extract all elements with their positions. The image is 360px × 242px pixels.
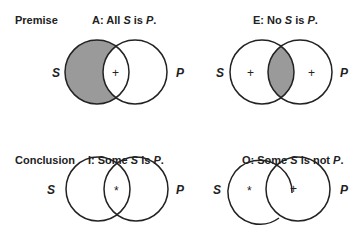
premise-label: Premise — [15, 14, 58, 26]
asterisk-mark: * — [247, 184, 252, 198]
conclusion-label: Conclusion — [15, 154, 75, 166]
label-p: P — [340, 66, 349, 80]
diagram-e-title: E: No S is P. — [253, 14, 318, 26]
label-s: S — [216, 66, 224, 80]
plus-mark-right: + — [308, 66, 315, 80]
diagram-a-title: A: All S is P. — [92, 14, 156, 26]
label-p: P — [340, 183, 349, 197]
label-s: S — [52, 66, 60, 80]
circle-p — [266, 157, 330, 221]
diagram-a: A: All S is P. S P + — [52, 14, 185, 115]
diagram-i-title: I: Some S is P. — [88, 154, 164, 166]
plus-mark-left: + — [247, 66, 254, 80]
label-p: P — [176, 66, 185, 80]
plus-mark: + — [290, 182, 297, 196]
circle-s — [66, 157, 130, 221]
label-s: S — [213, 183, 221, 197]
label-s: S — [47, 183, 55, 197]
diagram-o: O: Some S is not P. S P * + — [213, 154, 349, 224]
plus-mark: + — [112, 66, 119, 80]
label-p: P — [176, 183, 185, 197]
asterisk-mark: * — [114, 184, 119, 198]
diagram-e: E: No S is P. S P + + — [216, 14, 349, 104]
venn-diagrams: Premise Conclusion A: All S is P. S P + … — [0, 0, 360, 242]
